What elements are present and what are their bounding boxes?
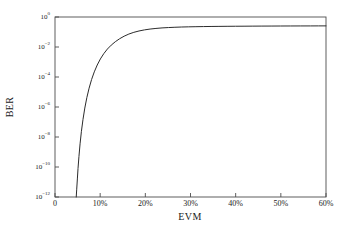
y-tick-label: 10−6 [24, 104, 50, 111]
x-axis-title: EVM [178, 211, 201, 222]
x-tick-label: 50% [273, 200, 288, 208]
chart-figure: 10010−210−410−610−810−1010−12 010%20%30%… [0, 0, 352, 235]
x-tick-label: 0 [53, 200, 57, 208]
y-tick-label: 100 [24, 14, 50, 21]
y-tick-label: 10−4 [24, 74, 50, 81]
plot-frame [55, 17, 326, 197]
x-tick-label: 60% [319, 200, 334, 208]
y-tick-label: 10−2 [24, 44, 50, 51]
x-tick-label: 30% [183, 200, 198, 208]
x-tick-label: 10% [93, 200, 108, 208]
y-axis-title: BER [4, 97, 15, 118]
x-tick-label: 20% [138, 200, 153, 208]
y-tick-label: 10−12 [24, 194, 50, 201]
y-tick-label: 10−10 [24, 164, 50, 171]
y-tick-label: 10−8 [24, 134, 50, 141]
x-tick-label: 40% [228, 200, 243, 208]
